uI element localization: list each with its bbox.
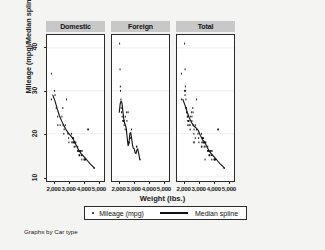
data-point: [185, 94, 186, 96]
data-point: [126, 120, 127, 122]
x-tick-mark: [134, 182, 135, 184]
x-tick-mark: [214, 182, 215, 184]
data-point: [121, 107, 122, 109]
legend-label-mileage: Mileage (mpg): [99, 210, 144, 217]
data-point: [71, 141, 72, 143]
data-point: [121, 111, 122, 113]
data-point: [57, 124, 58, 126]
data-point: [68, 137, 69, 139]
data-point: [81, 150, 82, 152]
x-tick-mark: [229, 182, 230, 184]
data-point: [75, 146, 76, 148]
data-point: [125, 129, 126, 131]
data-point: [60, 124, 61, 126]
data-point: [120, 86, 121, 88]
data-point: [193, 133, 194, 135]
data-point: [51, 99, 52, 101]
median-spline-line: [119, 101, 139, 159]
chart-legend: Mileage (mpg) Median spline: [84, 206, 247, 220]
data-point: [128, 111, 129, 113]
data-point: [194, 129, 195, 131]
data-point: [82, 150, 83, 152]
data-point: [71, 133, 72, 135]
data-point: [184, 90, 185, 92]
data-point: [189, 124, 190, 126]
data-point: [190, 129, 191, 131]
chart-caption: Graphs by Car type: [24, 228, 78, 235]
legend-label-median-spline: Median spline: [195, 210, 238, 217]
data-point: [74, 146, 75, 148]
data-point: [63, 133, 64, 135]
data-point: [201, 146, 202, 148]
x-tick-mark: [99, 182, 100, 184]
y-tick-label-30: 30: [31, 82, 38, 98]
data-point: [205, 159, 206, 161]
x-tick-mark: [84, 182, 85, 184]
data-point: [131, 129, 132, 131]
panel-plot-total: [176, 34, 235, 182]
data-point: [203, 137, 204, 139]
chart-figure: Mileage (mpg)/Median spline 40 30 20 10 …: [0, 0, 325, 250]
data-point: [188, 120, 189, 122]
y-tick-mark: [44, 178, 47, 179]
y-axis-title: Mileage (mpg)/Median spline: [24, 0, 33, 125]
panel-header-foreign: Foreign: [111, 21, 170, 32]
data-point: [181, 73, 182, 75]
data-point: [212, 150, 213, 152]
data-point: [124, 124, 125, 126]
data-point: [120, 68, 121, 70]
x-tick-mark: [69, 182, 70, 184]
data-point: [136, 146, 137, 148]
y-tick-mark: [44, 47, 47, 48]
data-point: [181, 99, 182, 101]
data-point: [201, 141, 202, 143]
data-point: [204, 146, 205, 148]
panel-header-domestic: Domestic: [46, 21, 105, 32]
data-point: [65, 124, 66, 126]
median-spline-line: [53, 95, 95, 168]
data-point: [185, 90, 186, 92]
data-point: [198, 137, 199, 139]
data-point: [185, 86, 186, 88]
data-point: [191, 111, 192, 113]
y-tick-mark: [44, 91, 47, 92]
data-point: [66, 99, 67, 101]
data-point: [196, 99, 197, 101]
data-point: [185, 68, 186, 70]
data-point: [194, 141, 195, 143]
data-point: [197, 133, 198, 135]
data-point: [126, 111, 127, 113]
x-tick-label: 5,000: [217, 185, 241, 192]
data-point: [51, 73, 52, 75]
scatter-series-mileage: [51, 73, 95, 169]
data-point: [184, 43, 185, 45]
data-point: [185, 99, 186, 101]
scatter-series-mileage: [181, 43, 225, 169]
data-point: [209, 154, 210, 156]
data-point: [68, 141, 69, 143]
panel-plot-domestic: [46, 34, 105, 182]
data-point: [54, 90, 55, 92]
data-point: [190, 124, 191, 126]
data-point: [195, 124, 196, 126]
data-point: [79, 154, 80, 156]
data-point: [201, 133, 202, 135]
y-tick-label-40: 40: [31, 39, 38, 55]
data-point: [55, 94, 56, 96]
y-tick-label-20: 20: [31, 126, 38, 142]
data-point: [191, 116, 192, 118]
x-tick-mark: [119, 182, 120, 184]
data-point: [193, 111, 194, 113]
data-point: [120, 99, 121, 101]
data-point: [218, 129, 219, 131]
x-tick-mark: [199, 182, 200, 184]
data-point: [211, 159, 212, 161]
data-point: [120, 90, 121, 92]
data-point: [187, 124, 188, 126]
x-tick-mark: [149, 182, 150, 184]
data-point: [195, 137, 196, 139]
data-point: [125, 116, 126, 118]
data-point: [57, 116, 58, 118]
x-tick-mark: [164, 182, 165, 184]
data-point: [198, 141, 199, 143]
